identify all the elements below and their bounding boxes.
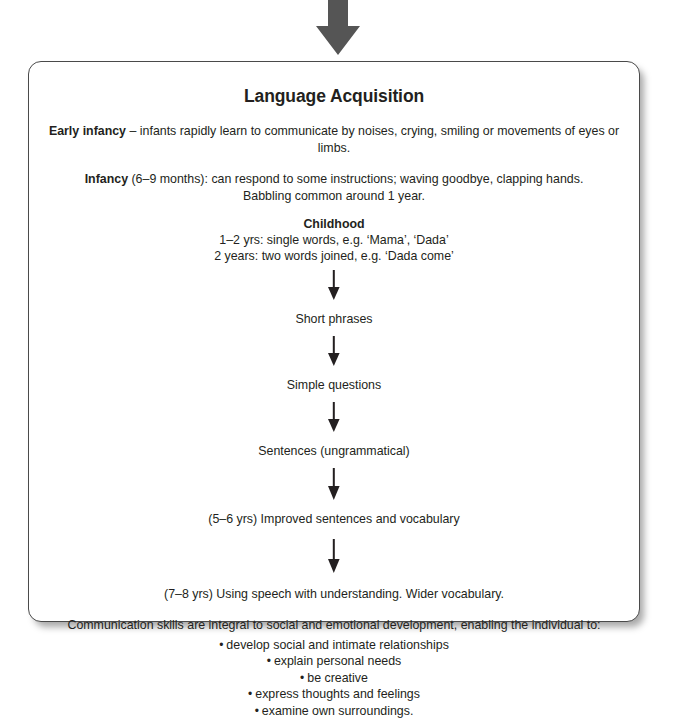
- down-arrow-icon: [326, 468, 342, 500]
- infancy-text: (6–9 months): can respond to some instru…: [128, 172, 583, 186]
- list-item: •examine own surroundings.: [47, 703, 621, 719]
- bullet-icon: •: [300, 671, 304, 685]
- babbling-text: Babbling common around 1 year.: [47, 188, 621, 205]
- bullet-icon: •: [248, 687, 252, 701]
- flow-step-speech-understanding: (7–8 yrs) Using speech with understandin…: [47, 586, 621, 602]
- early-infancy-paragraph: Early infancy – infants rapidly learn to…: [47, 123, 621, 156]
- early-infancy-text: – infants rapidly learn to communicate b…: [126, 124, 619, 155]
- closing-bullet-list: •develop social and intimate relationshi…: [47, 637, 621, 719]
- flow-arrow-1-wrap: [47, 270, 621, 300]
- list-item-label: express thoughts and feelings: [255, 687, 420, 701]
- flow-step-improved-sentences: (5–6 yrs) Improved sentences and vocabul…: [47, 511, 621, 527]
- flow-arrow-4-wrap: [47, 468, 621, 500]
- flow-arrow-3-wrap: [47, 402, 621, 432]
- flow-arrow-5-wrap: [47, 539, 621, 573]
- list-item: •be creative: [47, 670, 621, 687]
- flow-step-short-phrases: Short phrases: [47, 311, 621, 327]
- down-arrow-icon: [326, 402, 342, 432]
- infancy-label: Infancy: [85, 172, 128, 186]
- list-item-label: examine own surroundings.: [262, 704, 414, 718]
- bullet-icon: •: [267, 654, 271, 668]
- childhood-heading: Childhood: [47, 216, 621, 232]
- infancy-paragraph: Infancy (6–9 months): can respond to som…: [47, 171, 621, 188]
- down-arrow-icon: [326, 539, 342, 573]
- list-item-label: be creative: [307, 671, 368, 685]
- list-item: •express thoughts and feelings: [47, 686, 621, 703]
- early-infancy-label: Early infancy: [49, 124, 126, 138]
- flow-step-sentences-ungrammatical: Sentences (ungrammatical): [47, 443, 621, 459]
- down-arrow-icon: [326, 270, 342, 300]
- flow-arrow-2-wrap: [47, 336, 621, 366]
- down-arrow-icon: [326, 336, 342, 366]
- list-item-label: explain personal needs: [274, 654, 401, 668]
- childhood-line-2: 2 years: two words joined, e.g. ‘Dada co…: [47, 248, 621, 264]
- language-acquisition-panel: Language Acquisition Early infancy – inf…: [28, 61, 640, 622]
- entry-down-arrow-icon: [310, 0, 366, 56]
- list-item: •explain personal needs: [47, 653, 621, 670]
- bullet-icon: •: [255, 704, 259, 718]
- bullet-icon: •: [219, 638, 223, 652]
- panel-content: Language Acquisition Early infancy – inf…: [29, 62, 639, 621]
- childhood-line-1: 1–2 yrs: single words, e.g. ‘Mama’, ‘Dad…: [47, 232, 621, 248]
- list-item-label: develop social and intimate relationship…: [226, 638, 448, 652]
- flow-step-simple-questions: Simple questions: [47, 377, 621, 393]
- page-title: Language Acquisition: [47, 86, 621, 107]
- list-item: •develop social and intimate relationshi…: [47, 637, 621, 654]
- closing-intro: Communication skills are integral to soc…: [47, 617, 621, 634]
